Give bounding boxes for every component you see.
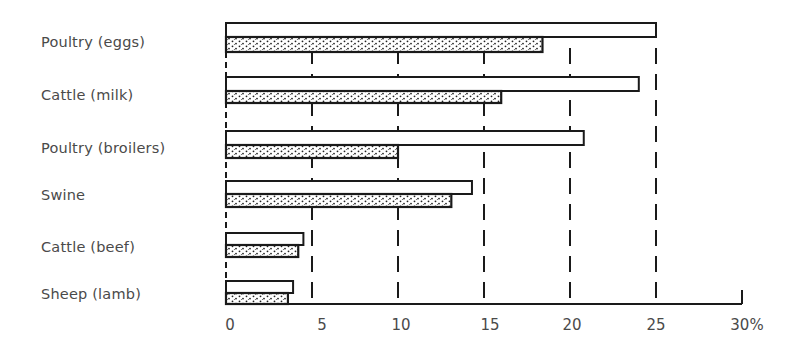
plot-area xyxy=(0,0,802,360)
gridlines xyxy=(226,22,656,304)
bar-stippled-swine xyxy=(226,194,451,207)
x-tick-0: 0 xyxy=(225,316,235,334)
bar-open-poultry-eggs xyxy=(226,23,656,37)
bar-open-cattle-milk xyxy=(226,77,639,91)
bar-stippled-cattle-milk xyxy=(226,91,501,103)
bar-stippled-poultry-broilers xyxy=(226,145,398,158)
category-label-sheep-lamb: Sheep (lamb) xyxy=(41,286,141,302)
bar-open-swine xyxy=(226,181,472,194)
category-label-cattle-beef: Cattle (beef) xyxy=(41,239,135,255)
bar-stippled-sheep-lamb xyxy=(226,293,288,304)
bar-open-cattle-beef xyxy=(226,233,303,245)
bar-open-sheep-lamb xyxy=(226,281,293,293)
category-label-poultry-broilers: Poultry (broilers) xyxy=(41,140,165,156)
bars xyxy=(226,23,656,304)
x-tick-5: 5 xyxy=(317,316,327,334)
bar-stippled-poultry-eggs xyxy=(226,37,542,52)
x-tick-20: 20 xyxy=(562,316,581,334)
category-label-poultry-eggs: Poultry (eggs) xyxy=(41,34,145,50)
x-tick-30: 30% xyxy=(730,316,763,334)
category-label-cattle-milk: Cattle (milk) xyxy=(41,87,133,103)
x-tick-15: 15 xyxy=(480,316,499,334)
bar-stippled-cattle-beef xyxy=(226,245,298,257)
x-tick-10: 10 xyxy=(391,316,410,334)
x-tick-25: 25 xyxy=(646,316,665,334)
bar-chart: Poultry (eggs) Cattle (milk) Poultry (br… xyxy=(0,0,802,360)
category-label-swine: Swine xyxy=(41,187,85,203)
bar-open-poultry-broilers xyxy=(226,131,584,145)
